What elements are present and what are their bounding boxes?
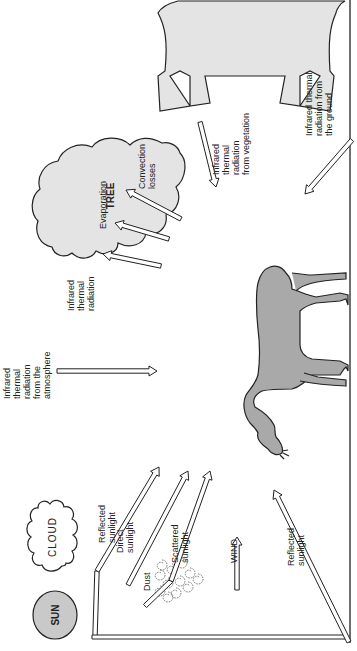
- label-line: from vegetation: [241, 113, 251, 175]
- diagram-canvas: SUN CLOUD TREE Reflected sunlight Direct…: [0, 0, 357, 651]
- dust-swirl: [163, 592, 173, 602]
- label-line: radiation: [231, 140, 241, 175]
- heat-exchange-diagram: SUN CLOUD TREE Reflected sunlight Direct…: [0, 0, 357, 651]
- horse-silhouette: [244, 266, 348, 454]
- dust-swirl: [155, 570, 165, 580]
- arrow-ir-ground: [305, 139, 354, 194]
- label-direct-sunlight: Direct sunlight: [115, 521, 135, 553]
- arrow-ground-reflected: [273, 490, 351, 643]
- sun: SUN: [33, 591, 77, 639]
- label-line: thermal: [221, 145, 231, 175]
- label-ir-vegetation: Infrared thermal radiation from vegetati…: [211, 113, 251, 175]
- dust-swirl: [175, 576, 185, 586]
- label-line: the ground: [324, 93, 334, 136]
- label-wind: WIND: [229, 539, 239, 563]
- arrow-sun-to-cloud: [93, 571, 99, 636]
- label-line: thermal: [76, 281, 86, 311]
- label-line: sunlight: [125, 521, 135, 553]
- arrow-ir-animal: [103, 251, 161, 268]
- label-line: sunlight: [180, 531, 190, 563]
- label-line: Scattered: [170, 524, 180, 563]
- sun-label: SUN: [50, 604, 61, 625]
- horse-leg-rear: [292, 273, 346, 291]
- label-line: sunlight: [296, 534, 306, 566]
- label-line: losses: [147, 163, 157, 189]
- dust-swirl: [185, 568, 195, 578]
- label-line: Infrared thermal: [304, 72, 314, 136]
- dust-swirl: [171, 588, 181, 598]
- label-line: Infrared: [66, 280, 76, 311]
- label-line: Convection: [137, 144, 147, 189]
- arrow-ir-atmosphere: [57, 366, 157, 376]
- cloud: CLOUD: [27, 500, 77, 571]
- dust-swirl: [157, 560, 167, 570]
- arrow-sun-to-ground: [92, 635, 346, 639]
- label-line: Reflected: [286, 528, 296, 566]
- horse: [244, 237, 348, 459]
- label-line: thermal: [12, 369, 22, 399]
- tree: TREE: [32, 1, 350, 258]
- label-reflected-sunlight-cloud: Reflected sunlight: [97, 502, 117, 543]
- label-line: radiation from: [314, 81, 324, 136]
- label-dust: Dust: [142, 572, 152, 591]
- label-line: Reflected: [97, 505, 107, 543]
- label-line: radiation: [22, 364, 32, 399]
- dust-swirl: [183, 582, 193, 592]
- label-ir-animal: Infrared thermal radiation: [66, 276, 96, 311]
- label-line: Direct: [115, 529, 125, 553]
- label-ir-atmosphere: Infrared thermal radiation from the atmo…: [2, 351, 52, 399]
- label-line: atmosphere: [42, 351, 52, 399]
- label-line: Infrared: [211, 144, 221, 175]
- label-line: from the: [32, 366, 42, 399]
- label-evaporation: Evaporation: [98, 181, 108, 229]
- label-line: Infrared: [2, 368, 12, 399]
- label-line: radiation: [86, 276, 96, 311]
- dust-swirl: [193, 574, 203, 584]
- cloud-label: CLOUD: [47, 517, 58, 557]
